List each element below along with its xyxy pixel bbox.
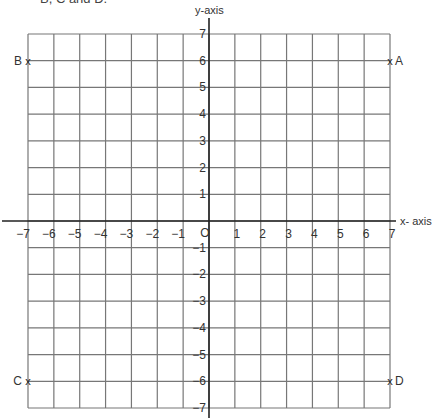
x-tick-label: −6 <box>42 227 56 241</box>
point-label-c: C <box>13 374 22 388</box>
y-tick-label: −5 <box>192 348 206 362</box>
y-tick-label: 1 <box>199 187 206 201</box>
x-tick-label: −2 <box>145 227 159 241</box>
point-label-a: A <box>395 54 403 68</box>
x-tick-label: 2 <box>259 227 266 241</box>
y-tick-label: −2 <box>192 267 206 281</box>
y-tick-label: 2 <box>199 161 206 175</box>
y-tick-label: 3 <box>199 134 206 148</box>
y-axis-label: y-axis <box>195 4 224 16</box>
point-marker-x-icon: x <box>387 375 393 387</box>
y-tick-label: −1 <box>192 241 206 255</box>
y-tick-label: 5 <box>199 80 206 94</box>
point-marker-x-icon: x <box>25 55 31 67</box>
point-marker-x-icon: x <box>25 375 31 387</box>
point-marker-x-icon: x <box>387 55 393 67</box>
coordinate-grid-chart: x- axisy-axis−7−6−5−4−3−2−11234567O−7−6−… <box>0 0 438 418</box>
y-tick-label: −4 <box>192 321 206 335</box>
x-tick-label: 6 <box>363 227 370 241</box>
x-tick-label: 1 <box>234 227 241 241</box>
y-tick-label: 4 <box>199 107 206 121</box>
x-tick-label: −4 <box>94 227 108 241</box>
x-tick-label: 5 <box>337 227 344 241</box>
origin-label: O <box>200 226 209 240</box>
x-tick-label: 7 <box>389 227 396 241</box>
y-tick-label: 6 <box>199 54 206 68</box>
y-tick-label: −6 <box>192 374 206 388</box>
x-tick-label: −7 <box>16 227 30 241</box>
x-tick-label: 4 <box>311 227 318 241</box>
point-label-d: D <box>395 374 404 388</box>
x-tick-label: −1 <box>171 227 185 241</box>
x-tick-label: −3 <box>120 227 134 241</box>
point-label-b: B <box>14 54 22 68</box>
y-tick-label: −3 <box>192 294 206 308</box>
y-tick-label: −7 <box>192 401 206 415</box>
x-axis-label: x- axis <box>400 215 432 227</box>
x-tick-label: −5 <box>68 227 82 241</box>
y-tick-label: 7 <box>199 27 206 41</box>
x-tick-label: 3 <box>285 227 292 241</box>
